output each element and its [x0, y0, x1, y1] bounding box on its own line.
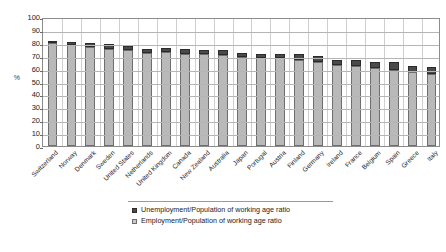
bar-group[interactable]: [294, 54, 304, 146]
bar-segment-employment[interactable]: [180, 54, 190, 146]
bar-group[interactable]: [408, 66, 418, 146]
bar-group[interactable]: [370, 62, 380, 146]
bar-segment-unemployment[interactable]: [237, 53, 247, 57]
bar-segment-employment[interactable]: [332, 65, 342, 146]
bar-segment-unemployment[interactable]: [199, 50, 209, 54]
y-tickmark: [40, 45, 43, 46]
bar-segment-unemployment[interactable]: [180, 49, 190, 54]
x-tick-label: Greece: [399, 149, 419, 169]
bar-segment-employment[interactable]: [142, 53, 152, 146]
stacked-bar-chart: % 1009080706050403020100 SwitzerlandNorw…: [0, 0, 446, 252]
bar-segment-employment[interactable]: [123, 50, 133, 146]
bar-group[interactable]: [351, 60, 361, 146]
bar-segment-unemployment[interactable]: [142, 49, 152, 54]
y-axis-title: %: [6, 74, 20, 81]
category-separator: [233, 19, 234, 146]
y-tick-label: 30: [32, 105, 40, 113]
category-separator: [384, 19, 385, 146]
gridline: [43, 32, 439, 33]
category-separator: [422, 19, 423, 146]
y-tickmark: [40, 135, 43, 136]
bar-segment-employment[interactable]: [199, 54, 209, 146]
bar-group[interactable]: [275, 54, 285, 146]
category-separator: [308, 19, 309, 146]
y-tick-label: 10: [32, 130, 40, 138]
category-separator: [251, 19, 252, 146]
legend-swatch-employment-icon: [132, 219, 137, 224]
category-separator: [365, 19, 366, 146]
bar-segment-unemployment[interactable]: [332, 60, 342, 65]
bar-segment-unemployment[interactable]: [294, 54, 304, 60]
category-separator: [119, 19, 120, 146]
bar-segment-unemployment[interactable]: [218, 50, 228, 55]
legend-label-employment: Employment/Population of working age rat…: [141, 217, 282, 225]
y-tick-label: 100: [27, 14, 40, 22]
bar-segment-unemployment[interactable]: [389, 62, 399, 70]
category-separator: [289, 19, 290, 146]
y-tickmark: [40, 96, 43, 97]
x-tick-label: Portugal: [246, 149, 268, 171]
x-tick-label: Spain: [384, 149, 401, 166]
bar-group[interactable]: [48, 40, 58, 146]
gridline: [43, 45, 439, 46]
bar-segment-unemployment[interactable]: [370, 62, 380, 68]
bar-group[interactable]: [313, 56, 323, 146]
category-separator: [62, 19, 63, 146]
category-separator: [327, 19, 328, 146]
bar-group[interactable]: [180, 49, 190, 146]
bar-group[interactable]: [237, 53, 247, 146]
bar-segment-employment[interactable]: [161, 52, 171, 146]
category-separator: [157, 19, 158, 146]
y-tick-label: 80: [32, 40, 40, 48]
bar-group[interactable]: [85, 43, 95, 146]
y-tickmark: [40, 122, 43, 123]
x-tick-label: United Kingdom: [135, 149, 173, 187]
bar-group[interactable]: [332, 60, 342, 146]
category-separator: [403, 19, 404, 146]
bar-segment-employment[interactable]: [67, 45, 77, 146]
gridline: [43, 84, 439, 85]
gridline: [43, 135, 439, 136]
gridline: [43, 58, 439, 59]
y-tick-label: 70: [32, 53, 40, 61]
plot-area: [42, 18, 440, 147]
y-axis-tick-labels: 1009080706050403020100: [20, 18, 40, 147]
bar-group[interactable]: [104, 44, 114, 146]
bar-group[interactable]: [256, 54, 266, 146]
bar-segment-unemployment[interactable]: [161, 48, 171, 52]
category-separator: [176, 19, 177, 146]
legend-item-employment: Employment/Population of working age rat…: [132, 216, 332, 226]
bar-group[interactable]: [218, 50, 228, 146]
x-tick-label: Austria: [267, 149, 286, 168]
x-axis-tick-labels: SwitzerlandNorwayDenmarkSwedenUnited Sta…: [42, 147, 440, 205]
y-tick-label: 90: [32, 27, 40, 35]
bar-group[interactable]: [199, 50, 209, 146]
legend-swatch-unemployment-icon: [132, 208, 137, 213]
legend-label-unemployment: Unemployment/Population of working age r…: [141, 206, 290, 214]
y-tickmark: [40, 109, 43, 110]
bar-segment-employment[interactable]: [218, 55, 228, 146]
y-tickmark: [40, 71, 43, 72]
bar-segment-unemployment[interactable]: [123, 46, 133, 50]
bar-segment-unemployment[interactable]: [48, 41, 58, 44]
category-separator: [138, 19, 139, 146]
bar-segment-employment[interactable]: [48, 43, 58, 146]
y-tickmark: [40, 84, 43, 85]
bar-group[interactable]: [389, 62, 399, 146]
category-separator: [195, 19, 196, 146]
y-tick-label: 0: [36, 143, 40, 151]
y-tick-label: 50: [32, 79, 40, 87]
x-tick-label: Switzerland: [30, 149, 59, 178]
y-tickmark: [40, 19, 43, 20]
bar-segment-employment[interactable]: [351, 66, 361, 146]
category-separator: [214, 19, 215, 146]
bar-segment-employment[interactable]: [294, 60, 304, 146]
bar-segment-employment[interactable]: [313, 62, 323, 146]
legend-divider: [128, 201, 333, 202]
y-tickmark: [40, 32, 43, 33]
gridline: [43, 96, 439, 97]
bar-segment-unemployment[interactable]: [351, 60, 361, 66]
y-tick-label: 60: [32, 66, 40, 74]
x-tick-label: Italy: [425, 149, 439, 163]
x-tick-label: Ireland: [324, 149, 343, 168]
